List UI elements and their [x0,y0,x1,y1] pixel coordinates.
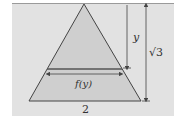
label-sqrt3: √3 [149,46,163,59]
label-fy: f(y) [74,78,92,89]
triangle-diagram: y √3 f(y) 2 [0,0,185,122]
label-y: y [132,31,140,44]
label-base: 2 [82,103,89,116]
